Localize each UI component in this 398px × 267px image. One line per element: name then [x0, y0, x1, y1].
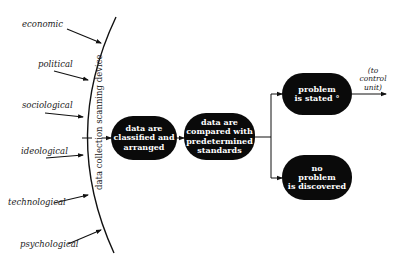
input-label-psychological: psychological [20, 240, 79, 249]
node-text-line: is stated ° [295, 94, 340, 103]
input-label-ideological: ideological [21, 147, 68, 156]
node-classified-arranged: data are classified and arranged [111, 116, 177, 160]
output-note-line: unit) [357, 84, 389, 92]
scanning-process-diagram: economic political sociological ideologi… [0, 0, 398, 267]
scanner-label: data collection scanning device [95, 55, 104, 191]
arrow-sociological [45, 113, 83, 117]
input-label-sociological: sociological [22, 101, 73, 110]
node-text-line: is discovered [288, 182, 346, 191]
arrow-economic [67, 29, 101, 43]
node-no-problem: no problem is discovered [282, 155, 352, 200]
input-label-political: political [38, 60, 73, 69]
input-label-technological: technological [8, 198, 66, 207]
input-label-economic: economic [22, 20, 63, 29]
node-problem-stated: problem is stated ° [282, 73, 352, 115]
node-text-line: arranged [113, 143, 174, 152]
output-note: (to control unit) [357, 67, 389, 92]
arrow-political [54, 71, 88, 80]
node-compared-standards: data are compared with predetermined sta… [184, 113, 255, 160]
node-text-line: standards [186, 146, 253, 155]
